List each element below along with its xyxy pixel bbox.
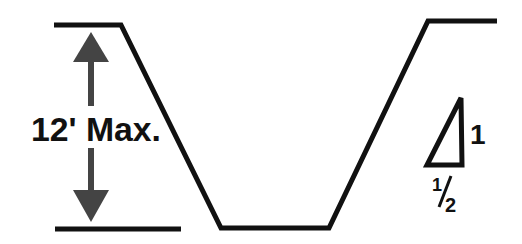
slope-run-label: 1 2 <box>432 175 456 216</box>
slope-triangle-icon <box>427 98 462 165</box>
arrow-up-shaft <box>88 60 94 106</box>
slope-rise-label: 1 <box>470 119 486 150</box>
arrow-up-head-icon <box>73 32 109 62</box>
arrow-down-shaft <box>88 148 94 192</box>
run-denominator: 2 <box>445 194 456 216</box>
run-numerator: 1 <box>432 175 442 195</box>
depth-label: 12' Max. <box>31 110 161 148</box>
trench-diagram: 12' Max. 1 1 2 <box>0 0 522 244</box>
arrow-down-head-icon <box>73 190 109 222</box>
